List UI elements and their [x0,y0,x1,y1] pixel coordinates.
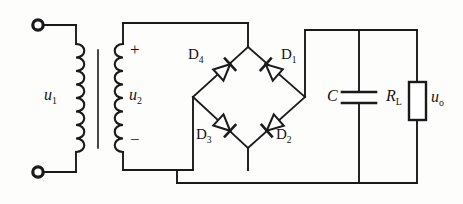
input-terminal-bottom [33,167,43,177]
label-capacitor: C [327,87,338,105]
secondary-polarity-minus: − [130,130,140,150]
input-terminals [33,20,43,177]
secondary-coil [115,44,123,152]
label-diode-d1: D1 [281,46,297,65]
load-resistor-body [409,82,426,120]
circuit-diagram: u1 u2 + − D4 D1 D3 D2 C RL uo [0,0,463,204]
label-diode-d3: D3 [196,126,212,145]
label-diode-d2: D2 [276,126,292,145]
label-diode-d4: D4 [188,46,204,65]
label-load-resistor: RL [386,87,402,107]
primary-coil [76,44,84,152]
label-output-voltage: uo [431,88,444,108]
label-u2: u2 [129,86,142,106]
secondary-polarity-plus: + [130,40,140,60]
input-terminal-top [33,20,43,30]
label-u1: u1 [44,86,57,106]
